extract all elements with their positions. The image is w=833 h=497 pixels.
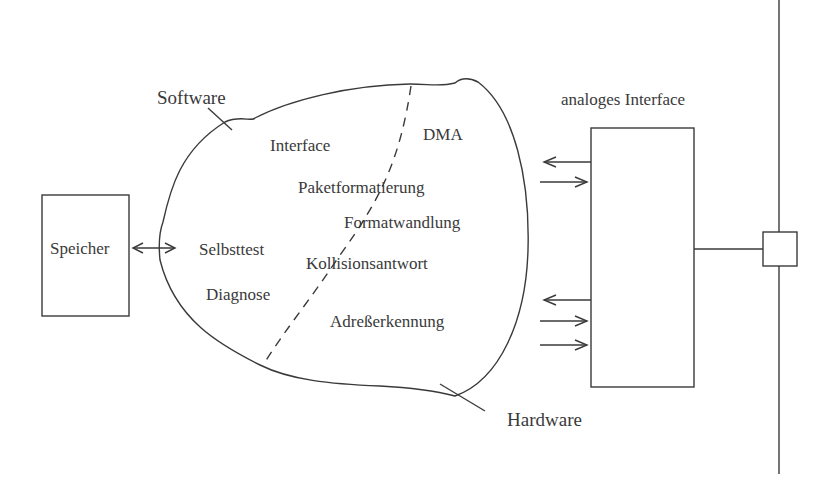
- diagram-graphics: [0, 0, 833, 497]
- software-leader-line: [208, 108, 232, 130]
- function-formatwandlung: Formatwandlung: [344, 214, 460, 231]
- function-dma: DMA: [423, 126, 463, 143]
- function-interface: Interface: [270, 137, 330, 154]
- function-diagnose: Diagnose: [206, 286, 270, 303]
- hardware-label: Hardware: [507, 410, 582, 429]
- transceiver-box: [763, 232, 797, 266]
- function-adresserkennung: Adreßerkennung: [330, 313, 444, 330]
- analog-interface-box: [591, 128, 694, 387]
- function-selbsttest: Selbsttest: [199, 241, 264, 258]
- software-label: Software: [157, 88, 226, 107]
- function-paketformatierung: Paketformatierung: [298, 179, 425, 196]
- analog-interface-label: analoges Interface: [561, 91, 685, 108]
- controller-blob-outline: [159, 79, 528, 396]
- interface-arrows-bottom: [540, 295, 591, 350]
- speicher-bidirectional-arrow: [133, 243, 175, 253]
- network-controller-diagram: Software Hardware Speicher analoges Inte…: [0, 0, 833, 497]
- interface-arrows-top: [540, 157, 591, 187]
- hardware-leader-line: [440, 384, 485, 411]
- function-kollisionsantwort: Kollisionsantwort: [306, 255, 428, 272]
- speicher-label: Speicher: [50, 240, 109, 257]
